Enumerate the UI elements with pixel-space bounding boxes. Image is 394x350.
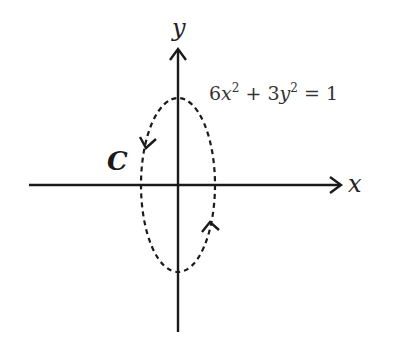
eq-coef-x: 6 (209, 82, 221, 104)
y-axis (170, 49, 186, 332)
ellipse-equation: 6x2 + 3y2 = 1 (209, 82, 338, 104)
eq-op: + (239, 82, 267, 104)
y-axis-label: y (172, 14, 186, 42)
eq-var-y: y (280, 82, 291, 104)
curve-label: C (107, 146, 128, 176)
direction-arrow-down-icon (140, 137, 156, 148)
eq-coef-y: 3 (267, 82, 279, 104)
eq-rhs: = 1 (298, 82, 338, 104)
x-axis-label: x (348, 170, 362, 198)
eq-var-x: x (221, 82, 232, 104)
x-axis (29, 177, 341, 193)
eq-exp-y: 2 (290, 81, 298, 95)
diagram-canvas (0, 0, 394, 350)
